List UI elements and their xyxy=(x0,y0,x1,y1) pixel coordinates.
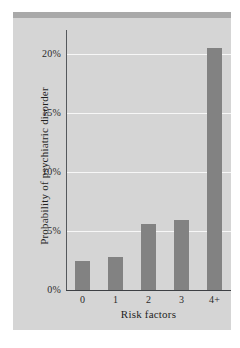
bar-2[interactable] xyxy=(141,224,157,290)
x-tick-label: 2 xyxy=(146,294,151,305)
bar-1[interactable] xyxy=(108,257,124,290)
bar-0[interactable] xyxy=(75,261,91,291)
bar-4+[interactable] xyxy=(207,48,223,290)
x-tick-label: 1 xyxy=(113,294,118,305)
plot-area: 0%5%10%15%20% 01234+ xyxy=(66,30,231,290)
x-axis-title: Risk factors xyxy=(66,308,231,320)
bar-3[interactable] xyxy=(174,220,190,290)
y-axis-line xyxy=(66,30,67,290)
figure-top-band xyxy=(13,12,231,18)
figure-canvas: 0%5%10%15%20% 01234+ Risk factors Probab… xyxy=(0,0,240,348)
y-axis-title: Probability of psychiatric disorder xyxy=(38,36,50,296)
x-tick-label: 0 xyxy=(80,294,85,305)
x-tick-label: 3 xyxy=(179,294,184,305)
x-axis-line xyxy=(66,290,231,291)
x-tick-label: 4+ xyxy=(209,294,220,305)
